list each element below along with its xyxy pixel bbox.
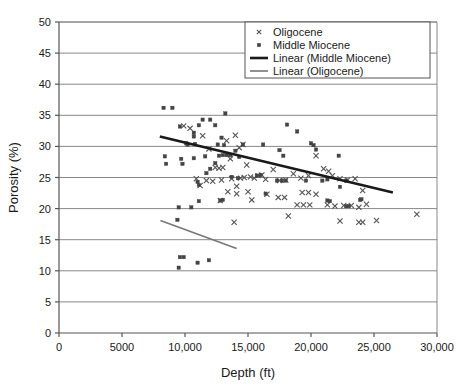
data-point-square — [214, 161, 217, 164]
data-point-x — [282, 195, 287, 200]
data-point-square — [177, 266, 180, 269]
data-point-x — [234, 184, 239, 189]
data-point-square — [222, 143, 225, 146]
trendline-group — [160, 136, 393, 248]
data-point-square — [162, 106, 165, 109]
x-axis-title: Depth (ft) — [221, 365, 275, 380]
y-tick-label: 25 — [39, 172, 51, 184]
data-point-square — [280, 179, 283, 182]
data-point-x — [295, 202, 300, 207]
data-point-square — [178, 255, 181, 258]
data-point-x — [298, 176, 303, 181]
data-point-square — [177, 206, 180, 209]
data-point-square — [216, 143, 219, 146]
data-point-x — [200, 133, 205, 138]
data-point-square — [171, 106, 174, 109]
x-tick-label: 25,000 — [357, 341, 391, 353]
data-point-x — [204, 178, 209, 183]
data-point-square — [201, 118, 204, 121]
data-point-square — [209, 118, 212, 121]
y-tick-label: 30 — [39, 140, 51, 152]
data-point-square — [207, 259, 210, 262]
data-point-x — [244, 162, 249, 167]
data-point-x — [232, 220, 237, 225]
legend-label: Linear (Middle Miocene) — [273, 52, 391, 64]
data-point-x — [374, 218, 379, 223]
data-point-square — [196, 180, 199, 183]
data-point-square — [181, 162, 184, 165]
legend-label: Middle Miocene — [273, 39, 350, 51]
data-point-square — [192, 131, 195, 134]
data-point-square — [241, 143, 244, 146]
data-point-x — [360, 188, 365, 193]
x-tick-label: 30,000 — [420, 341, 454, 353]
data-point-x — [300, 190, 305, 195]
data-point-x — [307, 202, 312, 207]
data-point-x — [313, 153, 318, 158]
legend-marker-square — [257, 43, 260, 46]
data-point-square — [192, 157, 195, 160]
data-point-square — [230, 175, 233, 178]
data-point-square — [190, 206, 193, 209]
data-point-square — [197, 124, 200, 127]
data-point-square — [224, 112, 227, 115]
y-tick-label: 35 — [39, 109, 51, 121]
data-point-x — [228, 156, 233, 161]
data-point-x — [353, 176, 358, 181]
data-point-square — [295, 130, 298, 133]
data-point-x — [233, 133, 238, 138]
data-point-x — [249, 197, 254, 202]
data-point-square — [196, 261, 199, 264]
legend: OligoceneMiddle MioceneLinear (Middle Mi… — [245, 22, 430, 78]
data-point-x — [286, 213, 291, 218]
data-point-x — [356, 205, 361, 210]
data-point-x — [306, 190, 311, 195]
data-point-square — [236, 176, 239, 179]
data-point-square — [221, 153, 224, 156]
data-point-x — [220, 165, 225, 170]
data-point-x — [224, 138, 229, 143]
data-point-square — [312, 143, 315, 146]
data-point-square — [338, 185, 341, 188]
data-point-x — [321, 166, 326, 171]
data-point-x — [219, 177, 224, 182]
data-point-square — [328, 199, 331, 202]
data-point-square — [164, 162, 167, 165]
data-point-x — [271, 167, 276, 172]
porosity-depth-scatter-chart: 05101520253035404550 0500010,00015,00020… — [0, 0, 471, 387]
data-point-x — [291, 171, 296, 176]
legend-label: Oligocene — [273, 26, 323, 38]
data-point-x — [337, 218, 342, 223]
data-point-x — [325, 202, 330, 207]
x-tick-label: 5000 — [110, 341, 134, 353]
x-tick-label: 10,000 — [168, 341, 202, 353]
data-point-square — [282, 154, 285, 157]
y-tick-label: 0 — [45, 327, 51, 339]
data-point-x — [332, 204, 337, 209]
trendline — [160, 136, 393, 192]
x-tick-label: 15,000 — [231, 341, 265, 353]
data-point-square — [314, 148, 317, 151]
data-point-square — [209, 167, 212, 170]
x-tick-label: 0 — [56, 341, 62, 353]
trendline — [160, 220, 236, 248]
data-point-x — [234, 191, 239, 196]
y-axis-ticks-group: 05101520253035404550 — [39, 16, 59, 339]
data-point-square — [178, 125, 181, 128]
data-point-square — [163, 155, 166, 158]
data-point-square — [255, 174, 258, 177]
data-point-square — [304, 179, 307, 182]
y-axis-title: Porosity (%) — [6, 142, 21, 213]
data-point-x — [364, 202, 369, 207]
data-point-square — [197, 183, 200, 186]
data-point-square — [259, 173, 262, 176]
y-tick-label: 15 — [39, 234, 51, 246]
data-point-square — [360, 198, 363, 201]
data-point-x — [414, 212, 419, 217]
data-point-square — [220, 136, 223, 139]
data-point-square — [180, 157, 183, 160]
series-oligocene — [181, 123, 419, 225]
y-tick-label: 40 — [39, 78, 51, 90]
data-point-square — [205, 171, 208, 174]
y-tick-label: 50 — [39, 16, 51, 28]
